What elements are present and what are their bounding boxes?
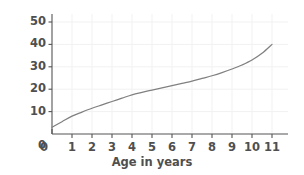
x-tick-label: 1 — [68, 142, 76, 154]
x-tick-label: 0 — [40, 142, 48, 154]
x-tick-label: 6 — [168, 142, 176, 154]
tick-marks — [49, 22, 273, 138]
x-tick-label: 11 — [264, 142, 280, 154]
y-tick-label: 30 — [30, 61, 46, 73]
gridlines — [52, 14, 288, 134]
y-tick-label: 20 — [30, 83, 46, 95]
y-tick-label: 50 — [30, 16, 46, 28]
x-tick-label: 8 — [208, 142, 216, 154]
x-tick-label: 2 — [88, 142, 96, 154]
data-series-line — [52, 44, 272, 127]
x-tick-label: 5 — [148, 142, 156, 154]
chart-container: 01020304050 01234567891011 Age in years … — [0, 0, 304, 175]
x-tick-label: 9 — [228, 142, 236, 154]
y-tick-label: 10 — [30, 106, 46, 118]
x-axis-title: Age in years — [0, 157, 304, 169]
x-tick-label: 3 — [108, 142, 116, 154]
x-tick-label: 10 — [244, 142, 260, 154]
axis-lines — [52, 14, 288, 134]
x-tick-label: 4 — [128, 142, 136, 154]
y-tick-label: 40 — [30, 39, 46, 51]
x-tick-label: 7 — [188, 142, 196, 154]
